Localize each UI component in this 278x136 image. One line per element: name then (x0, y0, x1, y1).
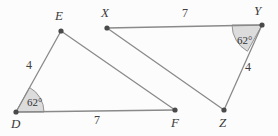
side-label-XY: 7 (182, 7, 188, 19)
vertex-dot-F (172, 107, 177, 112)
geometry-figure: D E F X Y Z 4 7 7 4 62° 62° (0, 0, 278, 136)
vertex-label-X: X (101, 6, 109, 19)
vertex-dot-Y (259, 22, 264, 27)
angle-label-Y: 62° (237, 35, 252, 46)
vertex-dot-X (104, 25, 109, 30)
segment-group (16, 25, 262, 112)
side-label-DE: 4 (26, 59, 32, 71)
vertex-dot-Z (221, 107, 226, 112)
vertex-label-Y: Y (254, 4, 261, 17)
angle-label-D: 62° (27, 97, 42, 108)
vertex-label-Z: Z (219, 116, 226, 129)
side-label-YZ: 4 (245, 61, 251, 73)
geometry-canvas (0, 0, 278, 136)
vertex-label-F: F (171, 116, 179, 129)
vertex-label-E: E (55, 9, 63, 22)
segment-EF (61, 31, 175, 110)
vertex-dot-E (58, 28, 63, 33)
side-label-DF: 7 (94, 114, 100, 126)
angle-wedge-group (16, 25, 262, 112)
vertex-dot-D (13, 109, 18, 114)
vertex-dot-group (13, 22, 264, 114)
segment-XZ (107, 28, 224, 110)
vertex-label-D: D (11, 117, 20, 130)
